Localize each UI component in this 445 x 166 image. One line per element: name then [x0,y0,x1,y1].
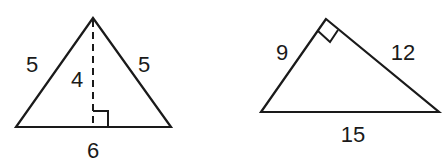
label-right-side: 5 [138,52,150,77]
label-long-leg: 12 [391,40,415,65]
label-short-leg: 9 [276,40,288,65]
right-angle-marker [93,111,108,127]
isosceles-triangle: 5 5 4 6 [16,18,171,163]
label-height: 4 [71,67,83,92]
right-triangle-outline [261,19,439,112]
label-left-side: 5 [26,52,38,77]
triangles-diagram: 5 5 4 6 9 12 15 [0,0,445,166]
label-base: 6 [87,138,99,163]
right-angle-marker [318,30,338,42]
label-hypotenuse: 15 [341,122,365,147]
right-triangle: 9 12 15 [261,19,439,147]
